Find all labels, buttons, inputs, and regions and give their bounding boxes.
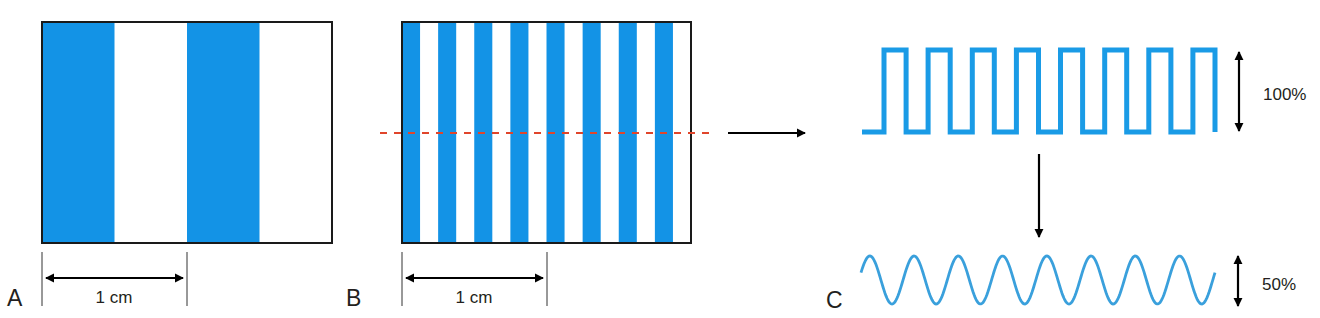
panel-b-label: B <box>346 285 361 311</box>
sine-wave <box>861 256 1215 304</box>
panel-a-label: A <box>7 285 23 311</box>
panel-c: 100% 50% C <box>826 50 1306 313</box>
blue-stripe <box>42 22 115 243</box>
contrast-grating-figure: 1 cm A 1 cm B 100% 50% C <box>0 0 1320 318</box>
amplitude-100-label: 100% <box>1263 85 1306 104</box>
blue-stripe <box>187 22 260 243</box>
square-wave <box>862 50 1215 132</box>
panel-c-label: C <box>826 287 843 313</box>
panel-a: 1 cm A <box>7 22 332 311</box>
grating-a-stripes <box>42 22 260 243</box>
amplitude-50-label: 50% <box>1262 275 1296 294</box>
scale-a-label: 1 cm <box>96 288 133 307</box>
panel-b: 1 cm B <box>346 22 712 311</box>
scale-b-label: 1 cm <box>456 288 493 307</box>
